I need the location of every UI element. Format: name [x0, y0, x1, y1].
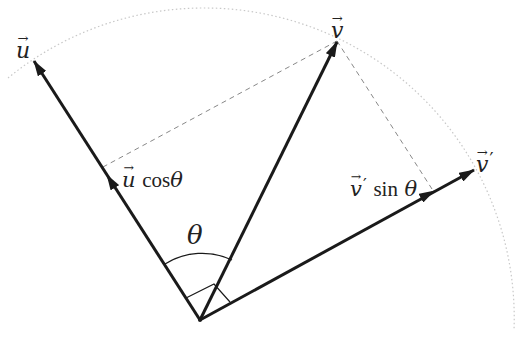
- label-v-text: v: [331, 20, 343, 42]
- vector-v-prime: [200, 170, 474, 320]
- angle-arc-theta: [165, 253, 232, 264]
- label-v-sin-theta: v′ sin θ: [350, 176, 417, 200]
- unit-circle-arc: [8, 8, 514, 330]
- label-u-cos-vec: u: [122, 170, 136, 191]
- vector-projection-diagram: u v v′ u cosθ v′ sin θ θ: [0, 0, 524, 337]
- origin-point: [198, 318, 202, 322]
- label-sin: sin: [373, 177, 398, 201]
- label-u: u: [16, 40, 30, 62]
- diagram-canvas: [0, 0, 524, 337]
- label-v-prime: v′: [476, 152, 493, 176]
- label-v-sin-vec: v: [350, 179, 362, 200]
- label-cos: cos: [142, 168, 170, 192]
- label-sin-theta: θ: [405, 177, 418, 201]
- vector-v: [200, 42, 337, 320]
- label-u-text: u: [16, 40, 30, 62]
- projection-line-u: [103, 41, 337, 167]
- label-u-cos-theta: u cosθ: [122, 170, 183, 191]
- projection-line-v-prime: [337, 41, 432, 189]
- label-v-prime-text: v: [476, 154, 488, 176]
- prime-mark-sin: ′: [363, 174, 367, 194]
- right-angle-marker: [186, 284, 230, 302]
- angle-theta-text: θ: [187, 220, 203, 250]
- label-v: v: [331, 20, 343, 42]
- prime-mark: ′: [489, 150, 493, 170]
- label-angle-theta: θ: [187, 222, 203, 248]
- label-cos-theta: θ: [170, 168, 183, 192]
